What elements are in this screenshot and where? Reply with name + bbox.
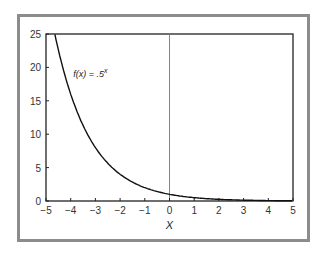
x-tick-label: 0	[167, 205, 173, 216]
x-tick-label: 4	[266, 205, 272, 216]
function-label: f(x) = .5x	[73, 67, 108, 79]
x-tick-label: 2	[216, 205, 222, 216]
x-tick-label: −1	[139, 205, 151, 216]
x-axis-title: X	[165, 219, 174, 231]
y-tick-label: 5	[35, 163, 41, 174]
x-tick-label: 3	[241, 205, 247, 216]
x-tick-label: −3	[90, 205, 102, 216]
function-label-exponent: x	[103, 67, 108, 74]
chart: −5−4−3−2−10123450510152025Xf(x) = .5x	[0, 0, 325, 254]
x-tick-label: 5	[290, 205, 296, 216]
x-tick-label: −5	[40, 205, 52, 216]
x-tick-label: −2	[114, 205, 126, 216]
y-tick-label: 20	[30, 62, 42, 73]
y-tick-label: 15	[30, 96, 42, 107]
y-tick-label: 25	[30, 29, 42, 40]
y-tick-label: 0	[35, 196, 41, 207]
y-tick-label: 10	[30, 129, 42, 140]
series-line	[55, 34, 292, 200]
x-tick-label: 1	[191, 205, 197, 216]
x-tick-label: −4	[65, 205, 77, 216]
plot-area: −5−4−3−2−10123450510152025Xf(x) = .5x	[30, 29, 296, 231]
